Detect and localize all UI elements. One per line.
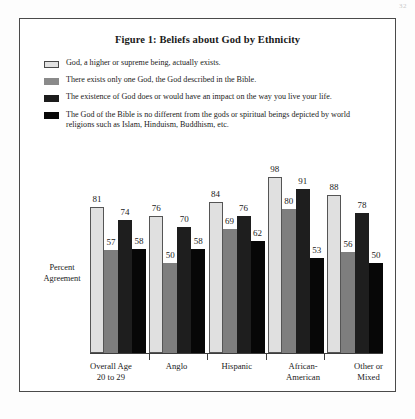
bar-value-label: 69 (225, 216, 234, 226)
bar-group: 98809153 (268, 173, 324, 353)
x-axis-category-label: Overall Age20 to 29 (90, 361, 132, 383)
bar-rect (163, 263, 177, 353)
plot-area: 8157745876507058846976629880915388567850 (90, 173, 383, 353)
bar-value-label: 91 (298, 176, 307, 186)
legend-swatch-icon (44, 61, 59, 68)
bar-value-label: 81 (93, 194, 102, 204)
bar-rect (369, 263, 383, 353)
bar-rect (296, 189, 310, 353)
bar-rect (177, 227, 191, 353)
bar-value-label: 58 (135, 236, 144, 246)
x-axis-tick (207, 354, 208, 360)
bar: 78 (355, 213, 369, 353)
figure-frame: Figure 1: Beliefs about God by Ethnicity… (19, 18, 396, 392)
legend-swatch-icon (44, 112, 59, 119)
bar-rect (282, 209, 296, 353)
bar-rect (223, 229, 237, 353)
bar-rect (327, 195, 341, 353)
bar-rect (341, 252, 355, 353)
bar-rect (268, 177, 282, 353)
category-label-line: Overall Age (90, 361, 132, 372)
bar: 80 (282, 209, 296, 353)
legend-item: The God of the Bible is no different fro… (44, 110, 374, 131)
bar: 76 (149, 216, 163, 353)
bar: 88 (327, 195, 341, 353)
bar-value-label: 88 (330, 182, 339, 192)
bar: 58 (191, 249, 205, 353)
y-axis-label-line1: Percent (34, 263, 90, 274)
bar-rect (149, 216, 163, 353)
legend-item: God, a higher or supreme being, actually… (44, 58, 374, 69)
bar-rect (310, 258, 324, 353)
bar-rect (237, 216, 251, 353)
bar: 98 (268, 177, 282, 353)
bar: 81 (90, 207, 104, 353)
x-axis-tick (149, 354, 150, 360)
legend-swatch-icon (44, 78, 59, 85)
bar-value-label: 50 (166, 250, 175, 260)
bar-value-label: 50 (372, 250, 381, 260)
bar: 56 (341, 252, 355, 353)
page-number-artifact: 32 (399, 2, 407, 10)
figure-title: Figure 1: Beliefs about God by Ethnicity (20, 34, 395, 45)
category-label-line: American (286, 372, 320, 383)
bar-value-label: 62 (253, 228, 262, 238)
page-canvas: 32 Figure 1: Beliefs about God by Ethnic… (0, 0, 415, 419)
bar-rect (90, 207, 104, 353)
bar: 50 (369, 263, 383, 353)
bar: 76 (237, 216, 251, 353)
bar-value-label: 70 (180, 214, 189, 224)
bar-rect (191, 249, 205, 353)
bar-value-label: 76 (239, 203, 248, 213)
x-axis-category-label: African-American (286, 361, 320, 383)
bar-rect (104, 250, 118, 353)
bar-value-label: 76 (152, 203, 161, 213)
x-axis-tick (324, 354, 325, 360)
plot-wrapper: Percent Agreement 8157745876507058846976… (20, 167, 395, 393)
bar: 91 (296, 189, 310, 353)
bar-value-label: 98 (270, 164, 279, 174)
bar-value-label: 53 (312, 245, 321, 255)
bar-value-label: 74 (121, 207, 130, 217)
bar-rect (251, 241, 265, 353)
legend-item-label: The existence of God does or would have … (66, 92, 332, 103)
category-label-line: Anglo (166, 361, 187, 372)
bar-value-label: 80 (284, 196, 293, 206)
y-axis-label-line2: Agreement (34, 274, 90, 285)
legend-item-label: There exists only one God, the God descr… (66, 75, 256, 86)
bar-value-label: 56 (344, 239, 353, 249)
bar-groups: 8157745876507058846976629880915388567850 (90, 173, 383, 353)
bar-value-label: 78 (358, 200, 367, 210)
x-axis-category-label: Hispanic (221, 361, 252, 383)
legend-item-label: God, a higher or supreme being, actually… (66, 58, 221, 69)
legend-item-label: The God of the Bible is no different fro… (66, 110, 374, 131)
bar-value-label: 84 (211, 189, 220, 199)
bar-group: 76507058 (149, 173, 205, 353)
bar: 62 (251, 241, 265, 353)
bar-rect (355, 213, 369, 353)
x-axis-category-label: Anglo (166, 361, 187, 383)
bar-group: 88567850 (327, 173, 383, 353)
bar: 58 (132, 249, 146, 353)
bar: 69 (223, 229, 237, 353)
bar: 74 (118, 220, 132, 353)
category-label-line: 20 to 29 (90, 372, 132, 383)
bar-group: 84697662 (209, 173, 265, 353)
legend-item: There exists only one God, the God descr… (44, 75, 374, 86)
y-axis-label: Percent Agreement (34, 263, 90, 284)
bar: 70 (177, 227, 191, 353)
bar-group: 81577458 (90, 173, 146, 353)
bar: 50 (163, 263, 177, 353)
category-label-line: African- (286, 361, 320, 372)
chart-legend: God, a higher or supreme being, actually… (44, 58, 374, 131)
bar-rect (118, 220, 132, 353)
category-label-line: Mixed (354, 372, 383, 383)
bar: 57 (104, 250, 118, 353)
x-axis-category-label: Other orMixed (354, 361, 383, 383)
x-axis-category-labels: Overall Age20 to 29AngloHispanicAfrican-… (90, 361, 383, 383)
bar-rect (209, 202, 223, 353)
bar: 84 (209, 202, 223, 353)
x-axis-tick (266, 354, 267, 360)
category-label-line: Other or (354, 361, 383, 372)
legend-item: The existence of God does or would have … (44, 92, 374, 103)
